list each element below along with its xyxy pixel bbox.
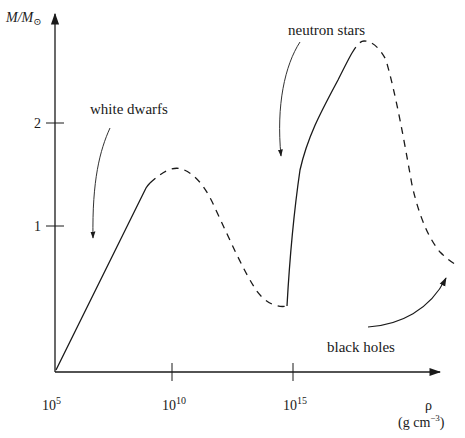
y-tick-label-2: 2 bbox=[34, 116, 41, 131]
annotation-white-dwarfs: white dwarfs bbox=[90, 101, 168, 117]
y-axis-title: M/M⊙ bbox=[5, 10, 42, 27]
neutron-star-branch bbox=[287, 53, 352, 306]
white-dwarf-branch bbox=[56, 183, 150, 370]
unstable-branch-1 bbox=[150, 168, 287, 306]
white-dwarfs-arrow bbox=[93, 128, 110, 238]
y-tick-2: 2 bbox=[34, 116, 64, 131]
black-holes-arrow bbox=[368, 278, 446, 327]
annotation-neutron-stars: neutron stars bbox=[288, 22, 365, 38]
y-tick-label-1: 1 bbox=[34, 219, 41, 234]
x-tick-label-1e5: 105 bbox=[42, 395, 61, 413]
x-tick-label-1e10: 1010 bbox=[162, 395, 186, 413]
chart-canvas: 1 2 105 1010 1015 M/M⊙ ρ (g cm−3) white … bbox=[0, 0, 465, 438]
x-tick-label-1e15: 1015 bbox=[283, 395, 307, 413]
y-tick-1: 1 bbox=[34, 219, 64, 234]
x-axis-title: ρ bbox=[425, 398, 432, 413]
unstable-branch-2 bbox=[352, 41, 459, 266]
neutron-stars-arrow bbox=[280, 42, 300, 156]
x-axis-unit: (g cm−3) bbox=[398, 413, 445, 431]
annotation-black-holes: black holes bbox=[327, 339, 395, 355]
